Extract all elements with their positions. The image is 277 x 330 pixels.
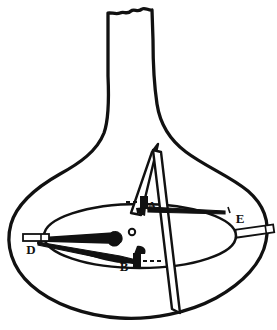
left-arm-knob (110, 231, 123, 244)
figure-background (0, 0, 277, 330)
label-a: A (147, 198, 157, 213)
b-block-marker (133, 253, 141, 269)
figure-container: A B D E (0, 0, 277, 330)
label-e: E (236, 211, 245, 226)
label-d: D (26, 242, 35, 257)
engraving-figure: A B D E (0, 0, 277, 330)
pivot-dot (129, 229, 135, 235)
d-bar-marker (23, 234, 49, 241)
label-b: B (120, 259, 129, 274)
